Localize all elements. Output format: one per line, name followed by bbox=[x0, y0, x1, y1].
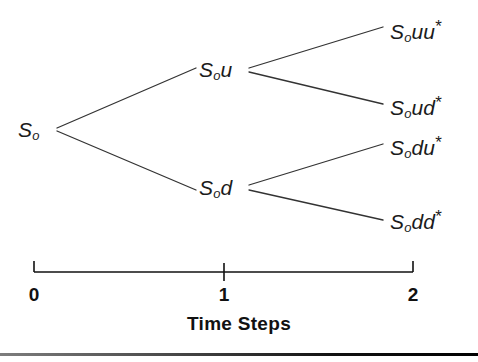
edge-down-to-downup bbox=[249, 144, 383, 185]
edge-root-to-down bbox=[57, 131, 196, 190]
axis-caption-text: Time Steps bbox=[187, 313, 291, 335]
edge-down-to-downdown bbox=[249, 190, 383, 220]
axis-tick-label-0: 0 bbox=[29, 285, 40, 304]
axis-caption: Time Steps bbox=[0, 313, 478, 335]
node-label-down-up: Sodu* bbox=[390, 134, 442, 160]
edge-up-to-updown bbox=[249, 72, 383, 104]
node-label-down-1: Sod bbox=[199, 174, 232, 200]
edge-up-to-upup bbox=[249, 27, 383, 68]
bottom-divider bbox=[0, 353, 478, 356]
node-label-up-up: Souu* bbox=[390, 18, 442, 44]
axis-tick-label-2: 2 bbox=[408, 285, 419, 304]
node-label-root: So bbox=[18, 116, 39, 142]
edge-root-to-up bbox=[57, 68, 196, 128]
node-label-up-1: Sou bbox=[199, 56, 232, 82]
axis-tick-label-1: 1 bbox=[219, 285, 230, 304]
node-label-down-down: Sodd* bbox=[390, 208, 442, 234]
binomial-tree-edges bbox=[0, 0, 478, 362]
figure-canvas: So Sou Sod Souu* Soud* Sodu* Sodd* 0 1 2… bbox=[0, 0, 478, 362]
node-label-up-down: Soud* bbox=[390, 94, 442, 120]
